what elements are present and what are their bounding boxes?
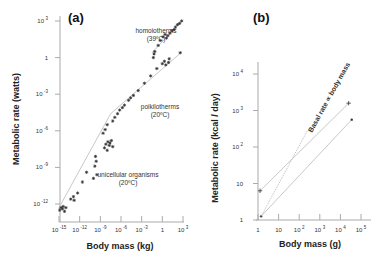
data-point-poikilotherms (106, 123, 109, 126)
data-point-unicellular (95, 160, 98, 163)
chart-a-x-tick-label: 10-6 (115, 225, 128, 233)
chart-a-y-tick-label: 103 (37, 16, 48, 24)
data-point-poikilotherms (161, 62, 164, 65)
data-point-poikilotherms (104, 128, 107, 131)
data-point-unicellular (73, 199, 76, 202)
chart-b-line-3 (261, 131, 307, 217)
chart-a-x-label: Body mass (kg) (86, 241, 153, 251)
data-point-poikilotherms (143, 82, 146, 85)
chart-b-x-tick-label: 105 (356, 225, 367, 233)
chart-b-y-tick-label: 102 (232, 142, 243, 150)
data-point-poikilotherms (123, 104, 126, 107)
data-point-unicellular (72, 195, 75, 198)
chart-b-x-label: Body mass (g) (279, 239, 341, 249)
data-point-homoiotherms (152, 56, 155, 59)
chart-a-x-tick-label: 10-9 (94, 225, 107, 233)
data-point-unicellular (69, 198, 72, 201)
data-point-poikilotherms (113, 116, 116, 119)
chart-b-x-tick-label: 1 (256, 227, 260, 233)
chart-b-y-tick-label: 104 (232, 69, 243, 77)
data-point-unicellular (76, 191, 79, 194)
data-point-poikilotherms (168, 57, 171, 60)
chart-a-x-tick-label: 1 (161, 227, 165, 233)
chart-b-y-tick-label: 1 (240, 217, 244, 223)
data-point-unicellular (85, 171, 88, 174)
data-point-unicellular (63, 210, 66, 213)
annotation-homoiotherms-temp: (39ºC) (147, 35, 166, 43)
data-point-unicellular (93, 165, 96, 168)
data-point-homoiotherms (152, 52, 155, 55)
data-point-poikilotherms (155, 67, 158, 70)
data-point-poikilotherms (118, 108, 121, 111)
dot-marker (351, 118, 353, 120)
chart-b-y-tick-label: 103 (232, 106, 243, 114)
data-point-poikilotherms (167, 61, 170, 64)
chart-b-title: (b) (253, 10, 270, 25)
data-point-unicellular (103, 146, 106, 149)
annotation-unicellular-temp: (20ºC) (119, 179, 138, 187)
chart-a-x-tick-label: 10-3 (136, 225, 149, 233)
annotation-poikilotherms: poikilotherms (141, 103, 180, 111)
chart-b: (b) 104103102101 110102103104105 Metabol… (210, 10, 371, 249)
annotation-unicellular: unicellular organisms (97, 171, 159, 179)
chart-a-y-tick-label: 10-6 (36, 126, 49, 134)
annotation-homoiotherms: homoiotherms (135, 27, 177, 34)
data-point-unicellular (111, 145, 114, 148)
fit-line-unicellular (59, 114, 111, 208)
data-point-poikilotherms (116, 112, 119, 115)
chart-a-y-tick-label: 10-9 (36, 162, 49, 170)
chart-a-y-tick-label: 10-3 (36, 89, 49, 97)
chart-b-x-tick-label: 102 (294, 225, 305, 233)
chart-b-y-label: Metabolic rate (kcal / day) (210, 93, 220, 203)
chart-a-y-label: Metabolic rate (watts) (11, 73, 21, 165)
figure: (a) 103110-310-610-910-12 10-1510-1210-9… (0, 0, 390, 266)
chart-b-x-tick-label: 104 (335, 225, 346, 233)
chart-a-x-tick-label: 103 (178, 225, 189, 233)
annotation-poikilotherms-temp: (20ºC) (151, 111, 170, 119)
data-point-unicellular (92, 177, 95, 180)
chart-a-y-tick-label: 10-12 (33, 199, 48, 207)
data-point-poikilotherms (121, 106, 124, 109)
annotation-basal-rate: Basal rate ∝ body mass (307, 61, 352, 134)
chart-b-x-tick-label: 103 (314, 225, 325, 233)
chart-b-y-tick-label: 10 (236, 181, 243, 187)
chart-a-x-tick-label: 10-15 (52, 225, 67, 233)
data-point-unicellular (81, 180, 84, 183)
data-point-unicellular (106, 149, 109, 152)
chart-a-y-tick-label: 1 (45, 55, 49, 61)
data-point-poikilotherms (164, 63, 167, 66)
chart-a-title: (a) (68, 10, 84, 25)
data-point-unicellular (64, 206, 67, 209)
data-point-unicellular (108, 144, 111, 147)
data-point-poikilotherms (163, 60, 166, 63)
chart-b-x-tick-label: 10 (275, 227, 282, 233)
data-point-unicellular (104, 143, 107, 146)
data-point-poikilotherms (101, 132, 104, 135)
chart-a-x-tick-label: 10-12 (72, 225, 87, 233)
chart-b-line-1 (260, 103, 349, 191)
data-point-poikilotherms (149, 74, 152, 77)
data-point-poikilotherms (111, 119, 114, 122)
chart-b-line-2 (261, 120, 352, 217)
data-point-unicellular (94, 155, 97, 158)
chart-a: (a) 103110-310-610-910-12 10-1510-1210-9… (11, 10, 189, 251)
